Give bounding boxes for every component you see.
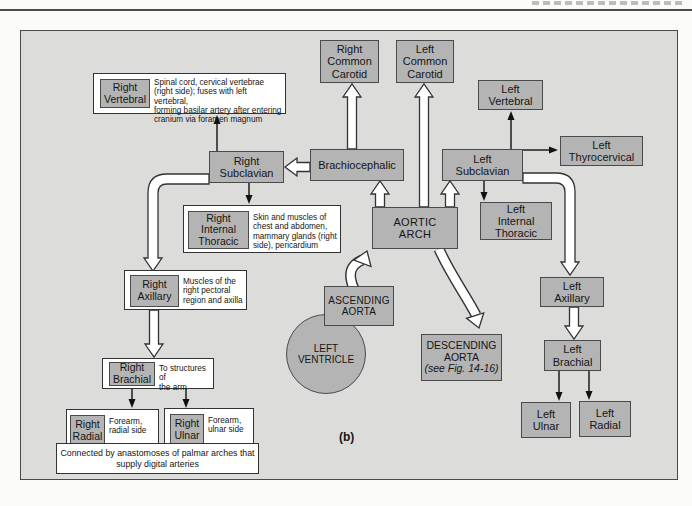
left-ventricle-label: LEFT VENTRICLE (298, 343, 354, 366)
arrow-left-subclavian-to-left-internal-thoracic (481, 181, 488, 201)
right-vertebral-description: Spinal cord, cervical vertebrae (right s… (150, 76, 285, 125)
node-right-radial: Right Radial (70, 415, 105, 446)
node-right-internal-thoracic: Right Internal Thoracic (188, 211, 249, 249)
arrow-aortic-arch-to-brachiocephalic (371, 181, 389, 207)
arrow-left-brachial-to-left-radial (586, 371, 593, 400)
arrow-aortic-arch-to-left-common-carotid (415, 84, 433, 207)
right-internal-thoracic-label: Right Internal Thoracic (198, 213, 238, 248)
right-vertebral-label: Right Vertebral (104, 82, 146, 105)
left-axillary-label: Left Axillary (554, 280, 589, 304)
descending-aorta-figure-ref: (see Fig. 14-16) (424, 363, 498, 375)
left-common-carotid-label: Left Common Carotid (403, 43, 448, 79)
node-aortic-arch: AORTIC ARCH (372, 207, 458, 249)
arrow-left-brachial-to-left-ulnar (556, 371, 563, 401)
left-vertebral-label: Left Vertebral (488, 83, 532, 107)
left-brachial-label: Left Brachial (553, 343, 593, 367)
arrow-left-subclavian-to-left-thyrocervical (523, 147, 558, 154)
right-radial-label: Right Radial (73, 419, 103, 442)
right-brachial-description: To structures of the arm (155, 362, 213, 392)
node-left-internal-thoracic: Left Internal Thoracic (480, 202, 552, 240)
left-subclavian-label: Left Subclavian (456, 153, 510, 177)
arrow-left-subclavian-to-left-vertebral (508, 111, 515, 149)
right-vertebral-group: Right Vertebral Spinal cord, cervical ve… (93, 73, 286, 114)
right-axillary-description: Muscles of the right pectoral region and… (179, 275, 245, 305)
node-ascending-aorta: ASCENDING AORTA (324, 286, 394, 326)
node-left-radial: Left Radial (579, 401, 631, 437)
right-axillary-group: Right Axillary Muscles of the right pect… (124, 270, 247, 310)
node-right-axillary: Right Axillary (130, 275, 179, 307)
node-brachiocephalic: Brachiocephalic (310, 149, 404, 181)
page-top-rule (0, 9, 692, 11)
node-left-brachial: Left Brachial (544, 340, 601, 371)
arrow-brachiocephalic-to-right-subclavian (285, 158, 310, 176)
right-common-carotid-label: Right Common Carotid (327, 43, 372, 79)
cropped-header-text (532, 1, 682, 5)
right-internal-thoracic-group: Right Internal Thoracic Skin and muscles… (183, 205, 341, 253)
palmar-arches-note: Connected by anastomoses of palmar arche… (56, 443, 259, 474)
ascending-aorta-label: ASCENDING AORTA (328, 295, 389, 317)
node-left-vertebral: Left Vertebral (478, 80, 543, 110)
node-left-ulnar: Left Ulnar (521, 402, 571, 438)
aortic-arch-label: AORTIC ARCH (393, 216, 436, 240)
right-internal-thoracic-description: Skin and muscles of chest and abdomen, m… (249, 211, 339, 250)
diagram-frame: LEFT VENTRICLE Right Common Carotid Left… (20, 30, 678, 480)
node-left-subclavian: Left Subclavian (442, 149, 523, 181)
right-subclavian-label: Right Subclavian (220, 155, 274, 179)
node-descending-aorta: DESCENDING AORTA (see Fig. 14-16) (421, 334, 502, 381)
arrow-aortic-arch-to-left-subclavian (441, 181, 459, 207)
right-ulnar-description: Forearm, ulnar side (204, 414, 246, 435)
arrow-left-axillary-to-left-brachial (565, 307, 583, 339)
arrow-right-axillary-to-right-brachial (145, 310, 163, 357)
node-right-brachial: Right Brachial (109, 362, 155, 386)
arrow-aortic-arch-to-descending-aorta (439, 249, 484, 328)
right-axillary-label: Right Axillary (138, 279, 172, 302)
arrow-brachiocephalic-to-right-common-carotid (343, 84, 361, 149)
right-radial-description: Forearm, radial side (105, 415, 148, 436)
node-left-common-carotid: Left Common Carotid (396, 40, 454, 83)
node-left-thyrocervical: Left Thyrocervical (560, 136, 643, 166)
node-right-common-carotid: Right Common Carotid (320, 40, 379, 83)
node-left-axillary: Left Axillary (540, 277, 604, 307)
arrow-right-subclavian-to-right-internal-thoracic (246, 183, 253, 204)
node-right-ulnar: Right Ulnar (170, 414, 204, 445)
arrow-ascending-aorta-to-aortic-arch (351, 251, 371, 289)
brachiocephalic-label: Brachiocephalic (318, 159, 396, 171)
right-ulnar-label: Right Ulnar (174, 418, 199, 441)
left-thyrocervical-label: Left Thyrocervical (569, 139, 634, 163)
right-brachial-group: Right Brachial To structures of the arm (102, 358, 214, 389)
left-ulnar-label: Left Ulnar (533, 408, 559, 432)
left-radial-label: Left Radial (589, 407, 620, 431)
descending-aorta-label: DESCENDING AORTA (426, 340, 496, 363)
node-left-ventricle: LEFT VENTRICLE (286, 314, 366, 394)
arrow-right-brachial-to-right-radial (129, 389, 136, 408)
left-internal-thoracic-label: Left Internal Thoracic (495, 203, 537, 239)
node-right-vertebral: Right Vertebral (100, 79, 150, 108)
node-right-subclavian: Right Subclavian (209, 151, 284, 183)
right-brachial-label: Right Brachial (113, 362, 151, 385)
figure-caption: (b) (339, 430, 354, 444)
